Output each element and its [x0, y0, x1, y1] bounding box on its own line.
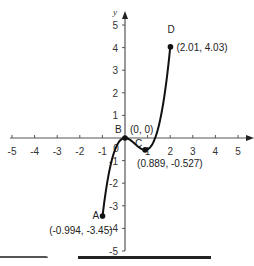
x-axis-arrow-icon [246, 135, 254, 141]
point-coords-d: (2.01, 4.03) [176, 42, 227, 53]
y-axis-label: y [112, 7, 117, 17]
point-name-c: C [135, 138, 142, 149]
x-tick-label: 3 [190, 146, 196, 157]
y-tick-label: 3 [112, 65, 118, 76]
x-tick-label: -3 [53, 146, 62, 157]
point-name-d: D [167, 24, 174, 35]
x-tick-label: 5 [235, 146, 241, 157]
point-d [168, 44, 174, 50]
point-a [100, 213, 106, 219]
point-c [142, 147, 148, 153]
x-tick-label: -1 [98, 146, 107, 157]
decorative-strip-left [0, 256, 48, 258]
point-name-b: B [115, 124, 122, 135]
x-tick-label: -2 [75, 146, 84, 157]
y-tick-label: -3 [109, 201, 118, 212]
y-tick-label: 1 [112, 110, 118, 121]
y-tick-label: 5 [112, 20, 118, 31]
x-tick-label: -5 [8, 146, 17, 157]
x-tick-label: -4 [30, 146, 39, 157]
decorative-strip-right [78, 256, 211, 259]
y-tick-label: 2 [112, 88, 118, 99]
point-name-a: A [93, 210, 100, 221]
y-axis-arrow-icon [122, 11, 128, 19]
y-tick-label: 4 [112, 43, 118, 54]
y-tick-label: -2 [109, 178, 118, 189]
point-coords-b: (0, 0) [130, 124, 153, 135]
x-tick-label: 2 [167, 146, 173, 157]
cubic-function-chart: y-5-4-3-2-112345-5-4-3-2-1123450A(-0.994… [0, 0, 254, 266]
point-b [122, 135, 128, 141]
x-tick-label: 4 [213, 146, 219, 157]
point-coords-a: (-0.994, -3.45) [49, 225, 112, 236]
point-coords-c: (0.889, -0.527) [137, 158, 203, 169]
